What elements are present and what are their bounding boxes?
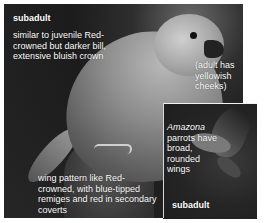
inset-divider xyxy=(163,103,164,218)
subadult-title: subadult xyxy=(13,13,51,24)
parrot-eye xyxy=(190,32,197,39)
subadult-description: similar to juvenile Red-crowned but dark… xyxy=(13,30,133,62)
amazona-note: Amazona parrots have broad, rounded wing… xyxy=(167,122,221,175)
parrot-foot xyxy=(94,144,132,154)
inset-subadult-title: subadult xyxy=(172,200,210,211)
wing-pattern-note: wing pattern like Red-crowned, with blue… xyxy=(38,173,158,215)
parrot-beak xyxy=(204,40,224,58)
amazona-note-text: parrots have broad, rounded wings xyxy=(167,133,217,175)
amazona-genus: Amazona xyxy=(167,122,205,132)
adult-cheeks-note: (adult has yellowish cheeks) xyxy=(195,60,255,92)
